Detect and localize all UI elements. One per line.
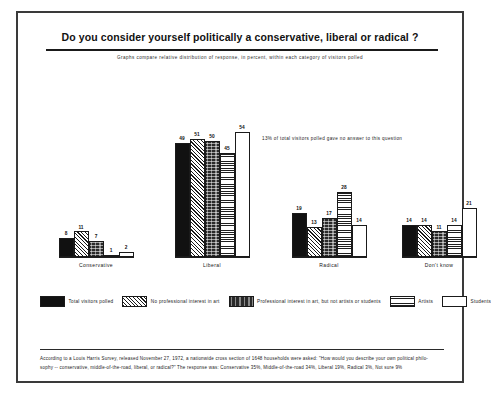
bar-rect — [220, 153, 235, 257]
bar-item: 45 — [220, 83, 235, 257]
legend-item-label: Students — [471, 299, 491, 304]
bar-rect — [402, 225, 417, 257]
bar-value-label: 14 — [356, 219, 361, 224]
bar-value-label: 21 — [466, 202, 471, 207]
bar-item: 54 — [235, 83, 250, 257]
legend-swatch-icon — [390, 296, 415, 307]
bar-value-label: 28 — [341, 186, 346, 191]
footer-line-1: According to a Louis Harris Survey, rele… — [40, 355, 446, 364]
bar-item: 13 — [307, 83, 322, 257]
legend-item: Total visitors polled — [40, 296, 113, 307]
bar-item: 19 — [292, 83, 307, 257]
bar-group-radical: 1913172814Radical — [292, 83, 367, 268]
bar-rect — [59, 238, 74, 257]
bar-rect — [352, 225, 367, 257]
page-title: Do you consider yourself politically a c… — [18, 31, 462, 43]
bar-value-label: 14 — [451, 219, 456, 224]
legend-item-label: Total visitors polled — [69, 299, 114, 304]
bar-rect — [432, 231, 447, 257]
bar-value-label: 8 — [65, 232, 68, 237]
footer-divider — [40, 349, 444, 350]
bar-item: 17 — [322, 83, 337, 257]
bar-value-label: 14 — [406, 219, 411, 224]
bar-rect — [175, 143, 190, 257]
legend-swatch-icon — [229, 296, 254, 307]
bar-item: 14 — [417, 83, 432, 257]
bar-rect — [322, 218, 337, 257]
bar-item: 14 — [352, 83, 367, 257]
group-axis-label: Don't know — [402, 262, 477, 268]
bar-value-label: 54 — [239, 126, 244, 131]
bar-group-liberal: 4951504554Liberal — [175, 83, 250, 268]
bar-rect — [205, 141, 220, 257]
bar-rect — [190, 139, 205, 257]
bar-value-label: 51 — [194, 133, 199, 138]
legend-item-label: Artists — [418, 299, 433, 304]
bar-value-label: 2 — [125, 246, 128, 251]
legend-swatch-icon — [40, 296, 65, 307]
legend-item: Students — [442, 296, 491, 307]
bar-item: 11 — [74, 83, 89, 257]
legend-item: No professional interest in art — [122, 296, 219, 307]
bar-rect — [307, 227, 322, 257]
group-baseline — [59, 257, 134, 258]
title-divider — [46, 49, 438, 51]
bar-item: 8 — [59, 83, 74, 257]
footer-line-2: sophy -- conservative, middle-of-the-roa… — [40, 364, 446, 373]
group-baseline — [402, 257, 477, 258]
bar-value-label: 7 — [95, 235, 98, 240]
poster-panel: Do you consider yourself politically a c… — [16, 11, 464, 383]
bar-rect — [337, 192, 352, 257]
bar-value-label: 45 — [224, 147, 229, 152]
bar-item: 1 — [104, 83, 119, 257]
legend-item-label: Professional interest in art, but not ar… — [257, 299, 381, 304]
group-axis-label: Liberal — [175, 262, 250, 268]
bar-item: 14 — [402, 83, 417, 257]
legend-swatch-icon — [122, 296, 147, 307]
bar-value-label: 1 — [110, 249, 113, 254]
bar-chart-plot: 811712Conservative4951504554Liberal19131… — [28, 83, 452, 268]
bar-item: 14 — [447, 83, 462, 257]
bar-value-label: 50 — [209, 135, 214, 140]
bar-rect — [447, 225, 462, 257]
group-baseline — [175, 257, 250, 258]
bar-rect — [235, 132, 250, 257]
bar-group-conservative: 811712Conservative — [59, 83, 134, 268]
bar-item: 51 — [190, 83, 205, 257]
bar-item: 49 — [175, 83, 190, 257]
bar-group-don-t-know: 1414111421Don't know — [402, 83, 477, 268]
bar-value-label: 19 — [296, 207, 301, 212]
legend-item: Professional interest in art, but not ar… — [229, 296, 381, 307]
legend-item-label: No professional interest in art — [151, 299, 220, 304]
footer-source-note: According to a Louis Harris Survey, rele… — [40, 355, 446, 373]
bar-value-label: 17 — [326, 212, 331, 217]
group-baseline — [292, 257, 367, 258]
bar-rect — [74, 231, 89, 257]
bar-item: 21 — [462, 83, 477, 257]
bar-value-label: 13 — [311, 221, 316, 226]
bar-value-label: 49 — [179, 137, 184, 142]
bar-value-label: 11 — [436, 226, 441, 231]
group-axis-label: Conservative — [59, 262, 134, 268]
page-subtitle: Graphs compare relative distribution of … — [18, 55, 462, 60]
bar-rect — [89, 241, 104, 257]
bar-rect — [462, 208, 477, 257]
bar-value-label: 14 — [421, 219, 426, 224]
bar-item: 11 — [432, 83, 447, 257]
bar-item: 50 — [205, 83, 220, 257]
bar-item: 28 — [337, 83, 352, 257]
chart-legend: Total visitors polledNo professional int… — [40, 296, 444, 307]
bar-rect — [292, 213, 307, 257]
bar-item: 7 — [89, 83, 104, 257]
group-axis-label: Radical — [292, 262, 367, 268]
bar-value-label: 11 — [78, 226, 83, 231]
legend-item: Artists — [390, 296, 433, 307]
legend-swatch-icon — [442, 296, 467, 307]
bar-rect — [417, 225, 432, 257]
bar-item: 2 — [119, 83, 134, 257]
